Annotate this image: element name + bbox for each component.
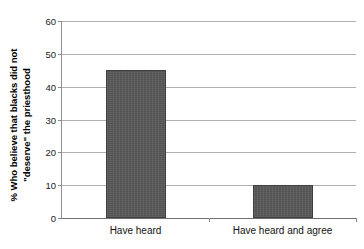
y-axis-tick [58,54,62,55]
y-axis-tick [58,87,62,88]
y-axis-tick [58,21,62,22]
x-axis-category-label: Have heard and agree [233,225,333,236]
y-axis-tick-label: 40 [45,81,56,92]
gridline [62,21,356,22]
plot-area: 0102030405060 [62,21,356,218]
y-axis-title: % Who believe that blacks did not "deser… [0,0,40,249]
bar [253,185,313,218]
y-axis-tick-label: 50 [45,48,56,59]
gridline [62,54,356,55]
y-axis-tick [58,120,62,121]
y-axis-title-line-1: % Who believe that blacks did not [8,48,21,201]
y-axis-tick [58,152,62,153]
x-axis-end-tick [356,218,357,222]
y-axis-tick [58,218,62,219]
y-axis-tick-label: 60 [45,16,56,27]
y-axis-tick-label: 0 [51,213,56,224]
y-axis-title-line-2: "deserve" the priesthood [20,48,33,201]
y-axis-tick-label: 10 [45,180,56,191]
y-axis-tick-label: 20 [45,147,56,158]
bar [106,70,166,218]
x-axis-category-label: Have heard [110,225,162,236]
bar-chart: % Who believe that blacks did not "deser… [0,0,364,249]
y-axis-tick-label: 30 [45,114,56,125]
x-axis-tick [209,218,210,222]
y-axis-tick [58,185,62,186]
